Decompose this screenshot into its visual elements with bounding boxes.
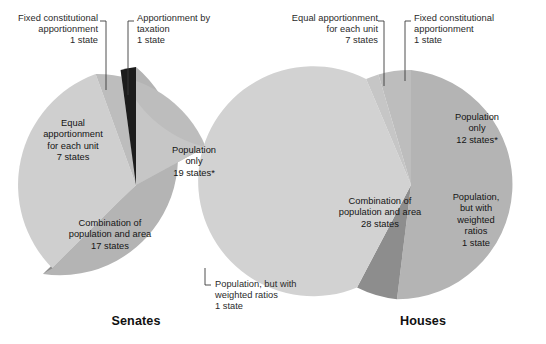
callout-equal-apportionment-houses: Equal apportionment for each unit 7 stat…: [286, 13, 378, 47]
slice-label-combination-houses: Combination of population and area 28 st…: [318, 196, 442, 230]
chart-title-houses: Houses: [373, 314, 473, 328]
callout-apportionment-by-taxation-senates: Apportionment by taxation 1 state: [137, 13, 249, 47]
apportionment-pie-figure: Fixed constitutional apportionment 1 sta…: [0, 0, 546, 344]
slice-label-combination-senates: Combination of population and area 17 st…: [48, 218, 172, 252]
leader-weighted-ratios-senates: [205, 268, 211, 285]
slice-label-weighted-ratios-houses: Population, but with weighted ratios 1 s…: [444, 192, 508, 249]
callout-weighted-ratios-senates: Population, but with weighted ratios 1 s…: [215, 279, 335, 313]
slice-label-population-only-houses: Population only 12 states*: [433, 112, 521, 146]
callout-fixed-constitutional-houses: Fixed constitutional apportionment 1 sta…: [414, 13, 534, 47]
callout-fixed-constitutional-senates: Fixed constitutional apportionment 1 sta…: [6, 13, 98, 47]
houses-slice-population-only[interactable]: [397, 70, 512, 299]
chart-title-senates: Senates: [86, 314, 186, 328]
houses-pie: [198, 66, 512, 299]
slice-label-population-only-senates: Population only 19 states*: [148, 145, 240, 179]
slice-label-equal-apportionment-senates: Equal apportionment for each unit 7 stat…: [22, 118, 124, 164]
